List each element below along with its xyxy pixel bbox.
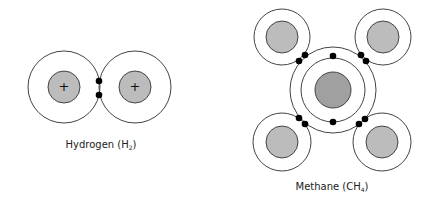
hydrogen-label: Hydrogen (H2) — [66, 139, 137, 151]
methane-label: Methane (CH4) — [296, 181, 369, 193]
hydrogen-nucleus — [266, 21, 298, 53]
hydrogen-nucleus — [367, 21, 399, 53]
shared-electron — [358, 52, 365, 59]
inner-electron — [330, 119, 337, 126]
hydrogen-nucleus — [366, 126, 398, 158]
inner-electron — [330, 53, 337, 60]
shared-electron — [296, 115, 303, 122]
shared-electron — [356, 121, 363, 128]
shared-electron — [302, 52, 309, 59]
shared-electron — [96, 92, 103, 99]
carbon-nucleus — [315, 72, 351, 108]
shared-electron — [302, 121, 309, 128]
hydrogen-molecule: + + Hydrogen (H2) — [28, 51, 171, 151]
shared-electron — [96, 78, 103, 85]
methane-molecule: Methane (CH4) — [253, 9, 411, 193]
hydrogen-atom-bottom-left — [253, 113, 311, 171]
shared-electron — [363, 58, 370, 65]
shared-electron — [362, 116, 369, 123]
positive-charge-icon: + — [59, 79, 70, 94]
positive-charge-icon: + — [130, 79, 141, 94]
hydrogen-nucleus — [266, 126, 298, 158]
covalent-bonding-diagram: + + Hydrogen (H2) — [0, 0, 437, 201]
hydrogen-atom-left: + — [28, 51, 100, 123]
shared-electron — [296, 58, 303, 65]
hydrogen-atom-right: + — [99, 51, 171, 123]
hydrogen-atom-top-left — [254, 9, 310, 65]
